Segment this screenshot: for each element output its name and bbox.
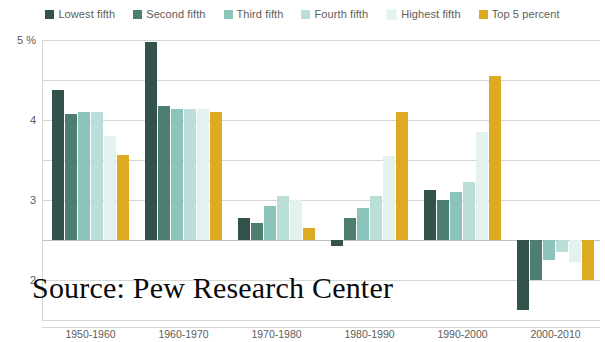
bar[interactable]	[277, 196, 289, 240]
x-axis-line	[42, 327, 600, 328]
legend-item[interactable]: Third fifth	[224, 9, 284, 20]
legend-item-label: Second fifth	[146, 9, 205, 20]
y-axis-tick-label: 3	[30, 194, 36, 206]
bar[interactable]	[476, 132, 488, 240]
bar[interactable]	[158, 106, 170, 240]
y-axis-tick-label: 4	[30, 114, 36, 126]
legend-swatch-icon	[133, 10, 142, 19]
legend-item-label: Fourth fifth	[314, 9, 368, 20]
legend-item[interactable]: Second fifth	[133, 9, 205, 20]
bar[interactable]	[52, 90, 64, 240]
bar[interactable]	[437, 200, 449, 240]
bar[interactable]	[450, 192, 462, 240]
x-axis-tick-label: 1990-2000	[437, 328, 487, 340]
legend-item[interactable]: Highest fifth	[386, 9, 460, 20]
bar[interactable]	[582, 240, 594, 280]
legend-item-label: Lowest fifth	[58, 9, 115, 20]
chart-legend: Lowest fifthSecond fifthThird fifthFourt…	[0, 4, 605, 24]
bar[interactable]	[357, 208, 369, 240]
bar[interactable]	[556, 240, 568, 252]
bar[interactable]	[210, 112, 222, 240]
bar[interactable]	[171, 109, 183, 240]
bar-group: 1990-2000	[424, 40, 502, 320]
bar[interactable]	[65, 114, 77, 240]
gridline: -2	[42, 320, 600, 321]
legend-item-label: Third fifth	[237, 9, 284, 20]
x-axis-tick-label: 1960-1970	[158, 328, 208, 340]
bar[interactable]	[396, 112, 408, 240]
legend-swatch-icon	[45, 10, 54, 19]
legend-item[interactable]: Top 5 percent	[479, 9, 560, 20]
legend-swatch-icon	[386, 9, 397, 20]
bar[interactable]	[489, 76, 501, 240]
legend-item-label: Highest fifth	[401, 9, 460, 20]
legend-swatch-icon	[224, 10, 233, 19]
x-axis-tick-label: 1970-1980	[251, 328, 301, 340]
bar[interactable]	[424, 190, 436, 240]
bar[interactable]	[290, 200, 302, 240]
bar[interactable]	[383, 156, 395, 240]
legend-swatch-icon	[479, 10, 488, 19]
bar[interactable]	[370, 196, 382, 240]
bar[interactable]	[251, 223, 263, 240]
legend-item-label: Top 5 percent	[492, 9, 560, 20]
legend-item[interactable]: Lowest fifth	[45, 9, 115, 20]
source-attribution-overlay: Source: Pew Research Center	[32, 272, 393, 304]
bar[interactable]	[517, 240, 529, 310]
x-axis-tick-label: 1950-1960	[65, 328, 115, 340]
bar[interactable]	[145, 42, 157, 240]
bar[interactable]	[184, 109, 196, 240]
bar[interactable]	[264, 206, 276, 240]
bar[interactable]	[569, 240, 581, 262]
bar[interactable]	[197, 109, 209, 240]
bar[interactable]	[117, 155, 129, 240]
bar[interactable]	[463, 182, 475, 240]
legend-swatch-icon	[301, 10, 310, 19]
bar[interactable]	[543, 240, 555, 260]
chart-container: Lowest fifthSecond fifthThird fifthFourt…	[0, 0, 605, 342]
bar[interactable]	[78, 112, 90, 240]
x-axis-tick-label: 1980-1990	[344, 328, 394, 340]
bar[interactable]	[331, 240, 343, 246]
y-axis-tick-label: 5 %	[17, 34, 36, 46]
bar[interactable]	[104, 136, 116, 240]
bar-group: 2000-2010	[517, 40, 595, 320]
bar[interactable]	[91, 112, 103, 240]
bar[interactable]	[303, 228, 315, 240]
bar[interactable]	[530, 240, 542, 280]
legend-item[interactable]: Fourth fifth	[301, 9, 368, 20]
x-axis-tick-label: 2000-2010	[530, 328, 580, 340]
bar[interactable]	[238, 218, 250, 240]
bar[interactable]	[344, 218, 356, 240]
